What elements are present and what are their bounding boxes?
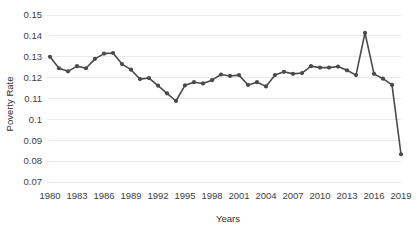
x-tick-label: 1989 — [120, 190, 141, 201]
data-point-marker — [228, 74, 232, 78]
data-point-marker — [165, 91, 169, 95]
data-point-marker — [75, 64, 79, 68]
y-tick-label: 0.13 — [24, 51, 43, 62]
y-axis-tick-labels: 0.150.140.130.120.110.10.090.080.07 — [24, 9, 43, 187]
poverty-rate-line — [50, 33, 401, 154]
data-point-marker — [246, 83, 250, 87]
data-point-marker — [147, 76, 151, 80]
data-point-marker — [273, 73, 277, 77]
y-tick-label: 0.11 — [24, 93, 42, 104]
x-tick-label: 2004 — [255, 190, 276, 201]
x-tick-label: 1980 — [39, 190, 60, 201]
data-point-marker — [318, 66, 322, 70]
x-axis-tick-labels: 1980198319861989199219951998200120042007… — [39, 190, 411, 201]
y-tick-label: 0.15 — [24, 9, 43, 20]
data-point-marker — [291, 72, 295, 76]
data-point-marker — [201, 81, 205, 85]
data-point-marker — [210, 78, 214, 82]
x-tick-label: 1992 — [147, 190, 168, 201]
x-tick-label: 2013 — [336, 190, 357, 201]
data-point-marker — [381, 77, 385, 81]
data-point-marker — [183, 83, 187, 87]
data-point-marker — [282, 70, 286, 74]
data-point-marker — [354, 73, 358, 77]
poverty-rate-markers — [48, 31, 403, 156]
data-point-marker — [300, 71, 304, 75]
data-point-marker — [327, 66, 331, 70]
data-point-marker — [363, 31, 367, 35]
x-tick-label: 2001 — [228, 190, 249, 201]
data-point-marker — [111, 51, 115, 55]
x-tick-label: 2010 — [309, 190, 330, 201]
data-point-marker — [237, 73, 241, 77]
x-tick-label: 1986 — [93, 190, 114, 201]
data-point-marker — [156, 83, 160, 87]
data-point-marker — [345, 68, 349, 72]
x-tick-label: 1983 — [66, 190, 87, 201]
x-tick-label: 2019 — [390, 190, 411, 201]
y-tick-label: 0.12 — [24, 72, 43, 83]
y-tick-label: 0.08 — [24, 155, 43, 166]
y-axis-title: Poverty Rate — [4, 77, 15, 132]
data-point-marker — [66, 69, 70, 73]
data-point-marker — [192, 80, 196, 84]
data-point-marker — [264, 84, 268, 88]
x-axis-title: Years — [216, 213, 240, 224]
y-tick-label: 0.14 — [24, 30, 43, 41]
data-point-marker — [219, 72, 223, 76]
x-tick-label: 1995 — [174, 190, 195, 201]
data-point-marker — [138, 77, 142, 81]
data-point-marker — [309, 64, 313, 68]
data-point-marker — [372, 72, 376, 76]
data-point-marker — [120, 62, 124, 66]
data-point-marker — [57, 66, 61, 70]
data-point-marker — [48, 55, 52, 59]
data-point-marker — [336, 64, 340, 68]
x-tick-label: 2016 — [363, 190, 384, 201]
data-point-marker — [390, 83, 394, 87]
gridlines — [47, 15, 401, 182]
data-point-marker — [174, 99, 178, 103]
x-tick-label: 2007 — [282, 190, 303, 201]
y-tick-label: 0.1 — [29, 114, 42, 125]
data-point-marker — [255, 80, 259, 84]
data-point-marker — [93, 57, 97, 61]
poverty-rate-chart: 0.150.140.130.120.110.10.090.080.07 1980… — [0, 0, 420, 231]
data-point-marker — [84, 66, 88, 70]
data-point-marker — [399, 152, 403, 156]
y-tick-label: 0.07 — [24, 176, 43, 187]
chart-canvas: 0.150.140.130.120.110.10.090.080.07 1980… — [0, 0, 420, 231]
data-point-marker — [129, 68, 133, 72]
data-point-marker — [102, 52, 106, 56]
x-tick-label: 1998 — [201, 190, 222, 201]
y-tick-label: 0.09 — [24, 135, 43, 146]
